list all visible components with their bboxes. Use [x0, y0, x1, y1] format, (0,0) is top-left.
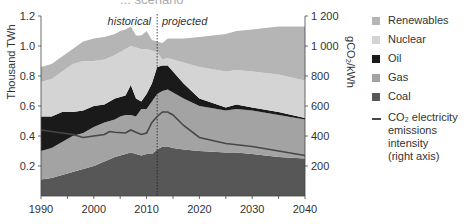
legend-co2-line1: CO₂ electricity — [388, 111, 458, 123]
legend-line-co2 — [372, 118, 381, 120]
legend-item-nuclear: Nuclear — [368, 33, 470, 52]
y-tick-label-left: 0.4 — [20, 130, 35, 142]
y-tick-label-left: 0.6 — [20, 100, 35, 112]
legend-co2-line3: (right axis) — [388, 150, 439, 162]
x-tick-label: 2040 — [293, 203, 317, 215]
y-tick-label-left: 0.2 — [20, 160, 35, 172]
y-tick-label-left: 1.0 — [20, 40, 35, 52]
y-tick-label-left: 1.2 — [20, 10, 35, 22]
annotation-projected: projected — [161, 15, 208, 27]
legend-label: Coal — [388, 90, 411, 103]
y-axis-title-right: gCO₂/kWh — [345, 36, 357, 88]
annotation-historical: historical — [108, 15, 152, 27]
y-axis-title-left: Thousand TWh — [5, 24, 17, 99]
legend-label: Renewables — [388, 14, 449, 27]
legend-label-co2: CO₂ electricity emissions intensity (rig… — [388, 111, 470, 163]
x-tick-label: 2020 — [187, 203, 211, 215]
chart-title: ... scenario — [120, 0, 184, 7]
y-tick-label-right: 800 — [311, 70, 329, 82]
legend-swatch-renewables — [372, 17, 380, 25]
legend-swatch-coal — [372, 93, 380, 101]
x-tick-label: 2000 — [82, 203, 106, 215]
legend-item-renewables: Renewables — [368, 14, 470, 33]
y-tick-label-right: 1 000 — [311, 40, 339, 52]
legend-item-oil: Oil — [368, 52, 470, 71]
legend-item-gas: Gas — [368, 71, 470, 90]
legend-label: Nuclear — [388, 33, 426, 46]
legend: Renewables Nuclear Oil Gas Coal CO₂ elec… — [368, 14, 470, 163]
legend-item-coal: Coal — [368, 90, 470, 109]
legend-item-co2-intensity: CO₂ electricity emissions intensity (rig… — [368, 111, 470, 163]
stacked-areas — [41, 27, 305, 197]
legend-label: Gas — [388, 71, 408, 84]
legend-co2-line2: emissions intensity — [388, 124, 437, 149]
legend-swatch-gas — [372, 74, 380, 82]
x-tick-label: 1990 — [29, 203, 53, 215]
x-tick-label: 2030 — [240, 203, 264, 215]
x-tick-label: 2010 — [134, 203, 158, 215]
y-tick-label-left: 0.8 — [20, 70, 35, 82]
y-tick-label-right: 400 — [311, 130, 329, 142]
legend-swatch-oil — [372, 55, 380, 63]
legend-swatch-nuclear — [372, 36, 380, 44]
y-tick-label-right: 200 — [311, 160, 329, 172]
y-tick-label-right: 600 — [311, 100, 329, 112]
legend-label: Oil — [388, 52, 401, 65]
y-tick-label-right: 1 200 — [311, 10, 339, 22]
